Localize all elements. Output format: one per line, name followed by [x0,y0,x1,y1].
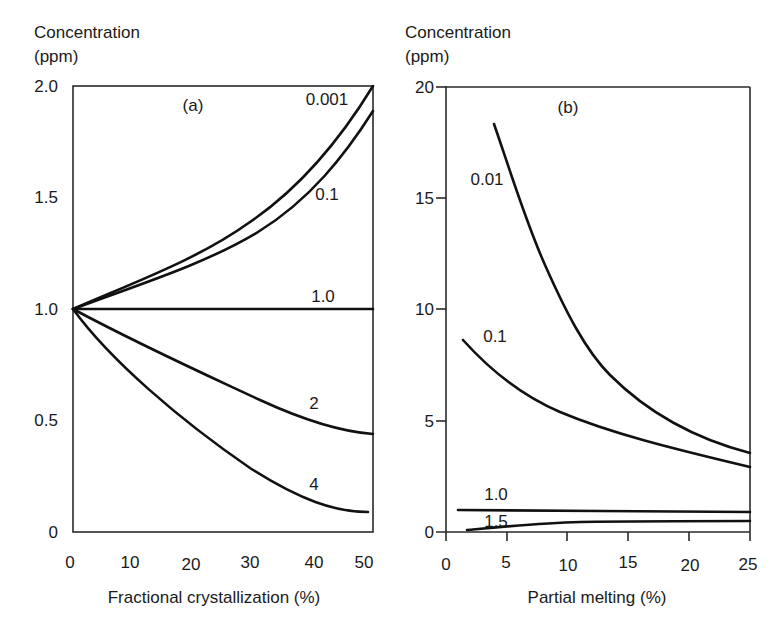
chart-a-ylabel-line2: (ppm) [34,47,78,66]
chart-b-xtick: 5 [501,553,510,572]
chart-a-curve-label: 0.1 [315,185,339,204]
chart-a-xtick: 10 [121,553,140,572]
chart-a-ytick: 2.0 [34,77,58,96]
chart-a-ylabel-line1: Concentration [34,23,140,42]
chart-a-curve-4 [73,309,368,512]
chart-b-xtick: 15 [619,553,638,572]
chart-b-ylabel-line1: Concentration [405,23,511,42]
chart-b-curve-label: 0.01 [470,170,503,189]
chart-a-xtick: 0 [65,553,74,572]
chart-a-curve-2 [73,309,373,434]
chart-b-curve-1.5 [467,521,750,530]
chart-a-xlabel: Fractional crystallization (%) [108,588,321,607]
chart-b-ytick: 5 [425,412,434,431]
chart-a-curve-0.1 [73,111,373,309]
chart-b-xtick: 25 [739,555,758,574]
chart-b-ylabel-line2: (ppm) [405,47,449,66]
chart-b-xtick: 20 [681,556,700,575]
figure: Concentration (ppm) 2.0 1.5 1.0 0.5 0 0 … [0,0,777,630]
chart-a-curve-label: 0.001 [306,90,349,109]
chart-b-curve-label: 1.0 [484,485,508,504]
chart-b-title: (b) [558,98,579,117]
chart-b: Concentration (ppm) 20 15 10 5 0 0 5 10 … [405,23,757,607]
chart-a-xtick: 20 [182,555,201,574]
chart-a-title: (a) [183,96,204,115]
chart-a-curve-label: 1.0 [311,287,335,306]
chart-a-xtick: 30 [241,553,260,572]
chart-b-xlabel: Partial melting (%) [528,588,667,607]
chart-b-curve-label: 1.5 [484,512,508,531]
chart-a: Concentration (ppm) 2.0 1.5 1.0 0.5 0 0 … [34,23,373,607]
chart-b-ytick: 15 [415,189,434,208]
chart-b-xtick: 10 [559,556,578,575]
chart-a-ytick: 1.5 [34,188,58,207]
chart-a-curve-label: 4 [309,475,318,494]
chart-a-ytick: 1.0 [34,300,58,319]
chart-a-ytick: 0.5 [34,411,58,430]
chart-b-curve-label: 0.1 [483,327,507,346]
chart-a-xtick: 40 [305,553,324,572]
chart-b-xtick: 0 [441,555,450,574]
chart-b-ytick: 0 [425,523,434,542]
chart-b-curve-0.01 [494,124,750,453]
chart-b-ytick: 20 [415,78,434,97]
chart-a-xtick: 50 [355,553,374,572]
chart-b-ytick: 10 [415,300,434,319]
chart-b-curve-0.1 [463,340,750,467]
chart-a-curve-label: 2 [309,394,318,413]
chart-a-ytick: 0 [49,523,58,542]
